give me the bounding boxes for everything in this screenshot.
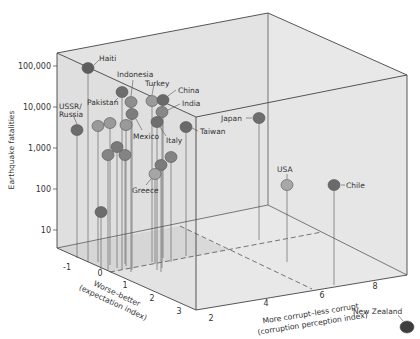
point-chile bbox=[328, 180, 340, 191]
point-turkey bbox=[146, 96, 158, 107]
point-china bbox=[157, 95, 169, 106]
point-japan bbox=[253, 113, 265, 124]
z-tick-10: 10 bbox=[41, 226, 51, 235]
x-tick-6: 6 bbox=[319, 291, 324, 300]
point-taiwan bbox=[180, 122, 192, 133]
point-india bbox=[156, 107, 168, 118]
point-new-zealand bbox=[400, 321, 414, 333]
x-tick-2: 2 bbox=[208, 314, 213, 323]
label-taiwan: Taiwan bbox=[199, 127, 226, 136]
y-tick-neg1: -1 bbox=[63, 263, 71, 272]
label-haiti: Haiti bbox=[99, 54, 116, 63]
label-chile: Chile bbox=[346, 181, 365, 190]
label-russia: Russia bbox=[59, 110, 83, 119]
z-tick-10000: 10,000 bbox=[23, 103, 51, 112]
point-italy bbox=[151, 117, 163, 128]
point-russia bbox=[71, 125, 83, 136]
z-axis: 100,000 10,000 1,000 100 10 Earthquake f… bbox=[7, 62, 57, 235]
z-axis-label: Earthquake fatalities bbox=[7, 111, 16, 190]
label-indonesia: Indonesia bbox=[117, 70, 153, 79]
z-tick-1000: 1,000 bbox=[28, 144, 51, 153]
y-tick-0: 0 bbox=[97, 269, 102, 278]
x-tick-4: 4 bbox=[263, 299, 268, 308]
point-unlabeled bbox=[95, 207, 107, 218]
y-tick-1: 1 bbox=[122, 281, 127, 290]
y-tick-3: 3 bbox=[176, 307, 181, 316]
point-greece bbox=[149, 169, 161, 180]
chart-3d-scatter: Haiti Indonesia Turkey China India Pakis… bbox=[0, 0, 420, 339]
point-mexico bbox=[126, 109, 138, 120]
label-greece: Greece bbox=[132, 186, 159, 195]
label-usa: USA bbox=[277, 165, 293, 174]
point-pakistan bbox=[116, 87, 128, 98]
label-india: India bbox=[182, 99, 200, 108]
label-pakistan: Pakistan bbox=[87, 98, 119, 107]
y-tick-2: 2 bbox=[149, 294, 154, 303]
point-indonesia bbox=[125, 97, 137, 108]
point-usa bbox=[281, 180, 293, 191]
x-tick-8: 8 bbox=[372, 282, 377, 291]
label-turkey: Turkey bbox=[144, 79, 170, 88]
label-mexico: Mexico bbox=[133, 132, 160, 141]
label-japan: Japan bbox=[220, 114, 242, 123]
z-tick-100000: 100,000 bbox=[18, 62, 51, 71]
point-unlabeled bbox=[102, 150, 114, 161]
z-tick-100: 100 bbox=[36, 185, 51, 194]
point-haiti bbox=[82, 63, 94, 74]
point-unlabeled bbox=[119, 150, 131, 161]
point-unlabeled bbox=[165, 152, 177, 163]
point-unlabeled bbox=[104, 118, 116, 129]
label-italy: Italy bbox=[166, 136, 183, 145]
label-china: China bbox=[178, 86, 199, 95]
point-unlabeled bbox=[92, 121, 104, 132]
point-unlabeled bbox=[120, 120, 132, 131]
